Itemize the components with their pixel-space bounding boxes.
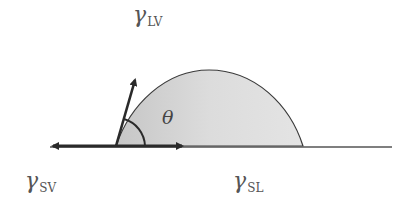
theta-label: θ <box>162 106 173 128</box>
gamma-lv-symbol: γ <box>133 2 146 27</box>
gamma-sv-subscript: SV <box>39 181 56 195</box>
liquid-droplet <box>116 70 303 146</box>
gamma-lv-subscript: LV <box>147 15 162 29</box>
gamma-sv-symbol: γ <box>25 168 38 193</box>
gamma-sl-label: γSL <box>233 168 263 193</box>
diagram-canvas <box>0 0 420 210</box>
contact-angle-diagram: θ γLV γSV γSL <box>0 0 420 210</box>
gamma-lv-label: γLV <box>133 2 162 27</box>
gamma-sv-label: γSV <box>25 168 56 193</box>
gamma-sl-symbol: γ <box>233 168 246 193</box>
gamma-sl-subscript: SL <box>247 181 263 195</box>
